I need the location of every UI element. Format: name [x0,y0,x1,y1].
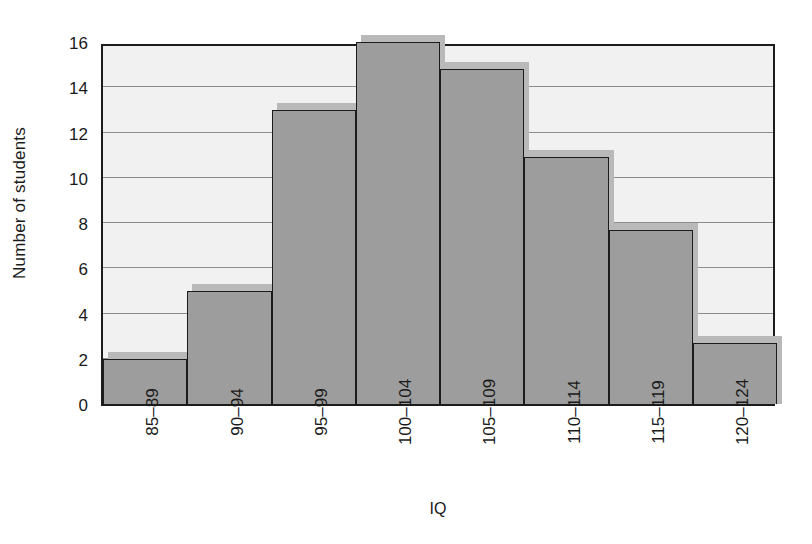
x-tick-label-text: 90–94 [227,388,247,435]
y-tick-label: 8 [79,215,88,235]
bar[interactable] [272,110,356,404]
bar-slot [103,46,187,404]
y-tick-label: 16 [69,34,88,54]
bar-slot [693,46,777,404]
x-tick-label-text: 105–109 [480,379,500,445]
bar-slot [272,46,356,404]
y-tick-label: 6 [79,260,88,280]
bar[interactable] [356,42,440,404]
bar-slot [524,46,608,404]
x-tick-label-text: 120–124 [733,379,753,445]
x-tick-label-text: 85–89 [143,388,163,435]
x-tick-label-text: 115–119 [649,380,669,444]
bar-series [103,46,773,404]
y-tick-label: 14 [69,79,88,99]
plot-area [101,44,775,406]
x-tick-label-text: 100–104 [396,379,416,445]
y-tick-label: 2 [79,351,88,371]
y-axis-title: Number of students [0,0,40,406]
x-axis-tick-labels: 85–8990–9495–99100–104105–109110–114115–… [101,406,775,502]
y-tick-label: 10 [69,170,88,190]
bar-slot [187,46,271,404]
bar-slot [609,46,693,404]
x-axis-title: IQ [101,500,775,518]
y-tick-label: 12 [69,125,88,145]
y-tick-label: 0 [79,396,88,416]
bar-slot [356,46,440,404]
bar-slot [440,46,524,404]
histogram-figure: Number of students 0246810121416 85–8990… [0,0,812,544]
x-tick-label-text: 110–114 [564,380,584,444]
bar[interactable] [187,291,271,404]
x-tick-label-text: 95–99 [312,388,332,435]
bar[interactable] [524,157,608,404]
y-tick-label: 4 [79,306,88,326]
plot-inner [103,46,773,404]
y-axis-title-text: Number of students [10,127,30,279]
bar[interactable] [609,230,693,404]
y-axis-tick-labels: 0246810121416 [38,44,94,406]
bar[interactable] [440,69,524,404]
